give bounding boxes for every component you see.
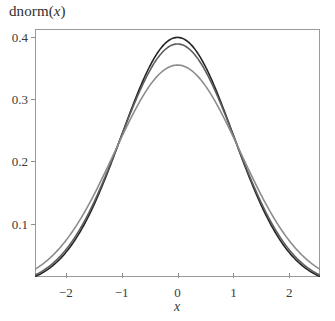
chart-figure: dnorm(x) 0.10.20.30.4 −2−1012 x [0,0,335,321]
x-axis-tick-label: 0 [174,286,181,299]
x-axis-tick-mark [178,273,179,278]
x-axis-tick-label: 1 [230,286,237,299]
chart-title: dnorm(x) [9,2,66,20]
curves-container [35,29,320,277]
y-axis-tick-label: 0.1 [12,218,28,231]
x-axis-tick-mark [66,273,67,278]
x-axis-label: x [174,299,180,315]
y-axis-tick-label: 0.4 [12,31,28,44]
chart-title-variable: x [54,3,61,19]
chart-curve [35,44,320,275]
y-axis-tick-label: 0.3 [12,93,28,106]
x-axis-tick-label: −2 [59,286,73,299]
chart-curve [35,37,320,276]
chart-curve [35,65,320,269]
x-axis-tick-mark [289,273,290,278]
x-axis-tick-label: 2 [286,286,293,299]
y-axis-tick-label: 0.2 [12,155,28,168]
x-axis-tick-label: −1 [115,286,129,299]
x-axis-tick-mark [122,273,123,278]
plot-area [35,29,320,277]
chart-title-prefix: dnorm( [9,3,54,19]
chart-title-suffix: ) [61,3,66,19]
x-axis-tick-mark [233,273,234,278]
